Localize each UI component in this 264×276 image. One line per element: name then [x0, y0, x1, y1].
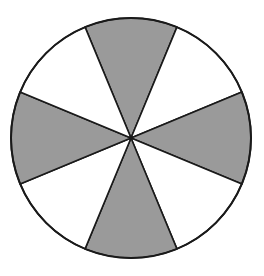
center-point: [129, 136, 133, 140]
diagram-canvas: [0, 0, 264, 276]
sector-circle: [0, 0, 264, 276]
